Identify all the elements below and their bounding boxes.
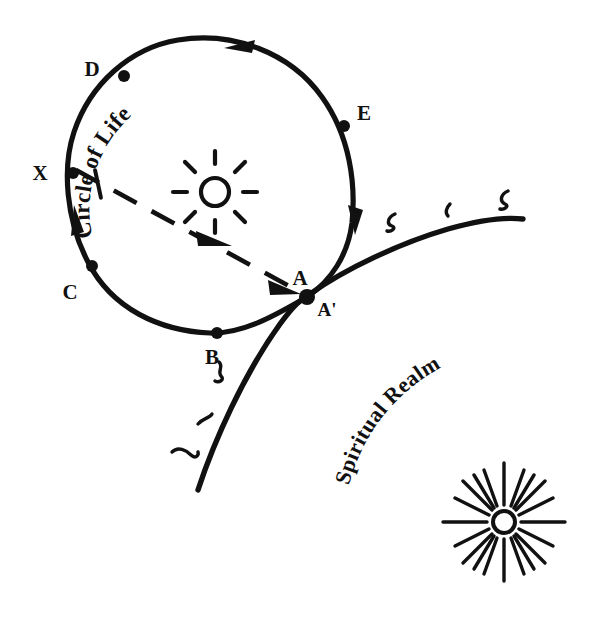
inner-sun-core — [201, 178, 229, 206]
circle-of-life-figure: Circle of Life and Spiritual Realm diagr… — [0, 0, 604, 622]
vertex-label-A-prime: A' — [318, 299, 337, 320]
vertex-label-B: B — [205, 345, 219, 369]
dashed-ray-group — [76, 170, 301, 295]
circle-of-life-path — [67, 38, 353, 333]
vertex-dot-E[interactable] — [338, 120, 350, 132]
circle-of-life-stroke — [67, 38, 353, 333]
realm-mark-2-icon — [446, 204, 450, 216]
spiritual-sun-rays — [443, 463, 565, 581]
realm-mark-6-icon — [172, 449, 198, 457]
spiritual-realm-label-text: Spiritual Realm — [330, 350, 444, 487]
vertex-dot-A-Aprime[interactable] — [299, 289, 315, 305]
vertex-dot-D[interactable] — [118, 70, 130, 82]
vertex-label-C: C — [62, 280, 77, 304]
spiritual-sun-core — [493, 511, 515, 533]
vertex-label-A: A — [292, 266, 308, 290]
vertex-label-D: D — [84, 57, 99, 81]
realm-mark-3-icon — [500, 191, 508, 209]
dashed-ray-x-to-a — [76, 170, 300, 292]
vertex-label-E: E — [357, 101, 371, 125]
diagram-canvas: Circle of Life and Spiritual Realm diagr… — [0, 0, 604, 622]
inner-sun-rays — [173, 151, 257, 233]
spiritual-realm-label: Spiritual Realm — [330, 350, 444, 487]
vertex-label-X: X — [32, 161, 47, 185]
realm-squiggle-marks — [172, 191, 508, 457]
spiritual-sun-icon — [443, 463, 565, 581]
vertex-dot-C[interactable] — [86, 260, 98, 272]
vertex-dot-B[interactable] — [211, 327, 223, 339]
inner-sun-icon — [173, 151, 257, 233]
realm-mark-1-icon — [387, 214, 395, 231]
realm-mark-5-icon — [198, 414, 212, 424]
